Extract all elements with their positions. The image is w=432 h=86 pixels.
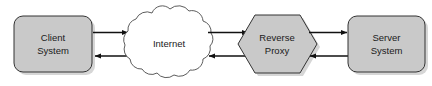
node-internet-cloud[interactable]: Internet xyxy=(124,6,213,78)
client-system-label-line1: Client xyxy=(41,32,66,43)
diagram-canvas: Client System Internet Reverse Proxy xyxy=(0,0,432,86)
internet-cloud-label: Internet xyxy=(153,38,186,49)
network-flow-diagram: Client System Internet Reverse Proxy xyxy=(0,0,432,86)
node-reverse-proxy[interactable]: Reverse Proxy xyxy=(238,15,320,76)
server-system-label-line1: Server xyxy=(373,32,401,43)
reverse-proxy-label-line1: Reverse xyxy=(259,32,294,43)
node-server-system[interactable]: Server System xyxy=(348,16,428,75)
reverse-proxy-label-line2: Proxy xyxy=(265,45,290,56)
client-system-label-line2: System xyxy=(37,45,69,56)
server-system-label-line2: System xyxy=(371,45,403,56)
node-client-system[interactable]: Client System xyxy=(14,16,95,75)
